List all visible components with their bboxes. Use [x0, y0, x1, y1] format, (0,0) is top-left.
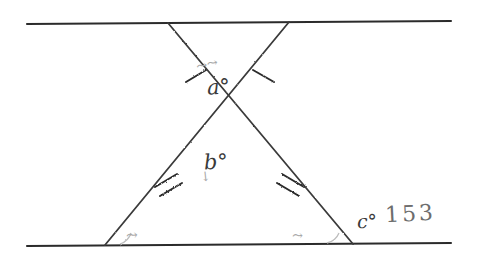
tick-lower-left-b	[160, 183, 182, 196]
tick-marks-lower	[155, 174, 304, 196]
angle-label-a: a°	[206, 76, 230, 99]
scribble-below-b: ↓	[199, 169, 211, 183]
bottom-right-angle-arc	[327, 233, 339, 243]
bottom-parallel-line	[27, 243, 451, 246]
tick-upper-right-single	[253, 70, 274, 82]
transversal-lines-group	[105, 22, 353, 245]
scribble-bottom-right: ⤳	[291, 229, 303, 243]
tick-lower-right-b	[277, 183, 299, 196]
scribble-bottom-left: ⤳	[125, 227, 139, 242]
angle-c-value: 153	[384, 202, 436, 227]
top-parallel-line	[27, 21, 451, 24]
angle-label-c: c°	[357, 212, 378, 232]
faint-arc-group	[120, 233, 339, 244]
diagram-canvas: a° b° c° 153 ⤳⤳ ↓ ⤳ ⤳	[0, 0, 477, 265]
